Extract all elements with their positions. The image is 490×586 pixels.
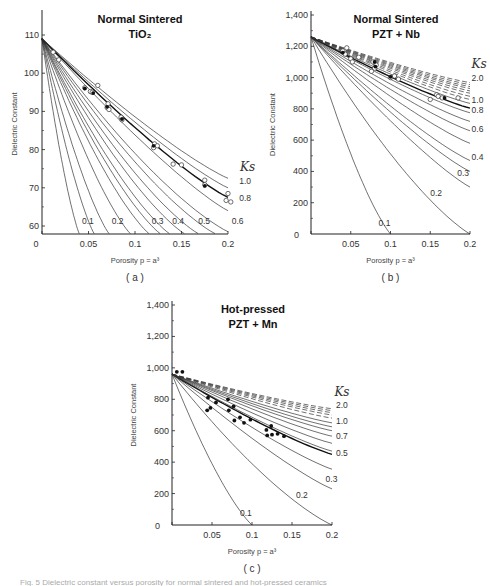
panel-label: ( b ) — [382, 272, 400, 283]
data-point-open — [203, 178, 207, 182]
ks-label-0.5: 0.5 — [198, 216, 210, 226]
chart-title-line2: PZT + Mn — [228, 318, 277, 330]
data-point-filled — [152, 144, 156, 148]
data-point-filled — [269, 424, 273, 428]
x-axis-label: Porosity p = a³ — [228, 547, 277, 556]
data-point-filled — [227, 408, 231, 412]
y-tick-label: 200 — [154, 489, 169, 499]
x-tick-label: 0.05 — [80, 239, 98, 249]
y-tick-label: 60 — [29, 221, 39, 231]
ks-label-0.1: 0.1 — [240, 508, 252, 518]
y-tick-label: 800 — [154, 394, 169, 404]
ks-label-1: 1.0 — [239, 176, 251, 186]
ks-label-0.8: 0.8 — [239, 193, 251, 203]
ks-label-1: 1.0 — [472, 95, 484, 105]
curves — [42, 39, 228, 234]
data-point-open — [345, 46, 349, 50]
chart-c-pzt-mn: 0.10.20.30.50.71.02.0Ks02004006008001,00… — [129, 300, 350, 574]
ks-label-0.8: 0.8 — [472, 105, 484, 115]
y-tick-label: 1,000 — [285, 73, 308, 83]
y-tick-label: 0 — [294, 230, 299, 240]
data-point-filled — [181, 370, 185, 374]
chart-title-line1: Normal Sintered — [354, 13, 439, 25]
ks-curve-0.8 — [42, 39, 228, 198]
ks-label-0.2: 0.2 — [430, 188, 442, 198]
data-point-filled — [265, 434, 269, 438]
x-tick-label: 0.15 — [283, 530, 301, 540]
x-tick-label: 0.15 — [173, 239, 191, 249]
chart-title-line1: Normal Sintered — [98, 13, 183, 25]
ks-curve-0.2 — [311, 37, 470, 234]
figure-canvas: 0.10.20.30.40.50.60.81.0Ks60708090100110… — [0, 0, 490, 586]
data-point-filled — [443, 96, 447, 100]
y-axis-label: Dielectric Constant — [129, 383, 138, 447]
y-tick-label: 0 — [155, 521, 160, 531]
data-point-open — [369, 69, 373, 73]
data-point-filled — [373, 60, 377, 64]
data-point-filled — [341, 51, 345, 55]
data-point-open — [51, 50, 55, 54]
ks-label-0.4: 0.4 — [172, 216, 184, 226]
y-tick-label: 100 — [24, 68, 39, 78]
x-tick-label: 0.05 — [342, 239, 360, 249]
ks-label-0.2: 0.2 — [112, 216, 124, 226]
data-point-filled — [232, 404, 236, 408]
data-point-filled — [203, 184, 207, 188]
y-tick-label: 600 — [293, 135, 308, 145]
data-point-filled — [175, 370, 179, 374]
data-point-filled — [91, 91, 95, 95]
chart-title-line2: PZT + Nb — [372, 28, 420, 40]
ks-label-0.6: 0.6 — [472, 124, 484, 134]
data-point-open — [226, 191, 230, 195]
data-point-filled — [120, 117, 124, 121]
ks-label-0.1: 0.1 — [379, 218, 391, 228]
ks-curve-0.9 — [42, 39, 228, 188]
chart-b-pzt-nb: 0.10.20.30.40.60.81.02.0Ks02004006008001… — [268, 10, 487, 283]
data-point-open — [357, 55, 361, 59]
ks-label-0.4: 0.4 — [472, 152, 484, 162]
y-tick-label: 1,400 — [146, 300, 169, 310]
data-point-open — [224, 198, 228, 202]
ks-curve-1 — [42, 39, 228, 179]
chart-a-tio2: 0.10.20.30.40.50.60.81.0Ks60708090100110… — [10, 10, 255, 283]
data-point-open — [456, 96, 460, 100]
chart-title-line1: Hot-pressed — [221, 303, 285, 315]
y-tick-label: 90 — [29, 106, 39, 116]
ks-label-0.5: 0.5 — [336, 448, 348, 458]
y-axis-label: Dielectric Constant — [10, 92, 19, 156]
x-axis-label: Porosity p = a³ — [111, 256, 160, 265]
ks-label-0.3: 0.3 — [457, 168, 469, 178]
data-point-open — [396, 77, 400, 81]
data-point-open — [392, 74, 396, 78]
data-point-filled — [83, 87, 87, 91]
x-tick-label: 0.1 — [129, 239, 142, 249]
y-tick-label: 1,400 — [285, 10, 308, 20]
x-tick-label: 0.2 — [464, 239, 477, 249]
data-point-open — [428, 97, 432, 101]
data-point-filled — [276, 432, 280, 436]
y-tick-label: 600 — [154, 426, 169, 436]
data-point-open — [229, 200, 233, 204]
ks-label-0.6: 0.6 — [232, 216, 244, 226]
ks-label-0.1: 0.1 — [82, 216, 94, 226]
data-point-filled — [238, 415, 242, 419]
data-point-filled — [206, 396, 210, 400]
y-tick-label: 800 — [293, 104, 308, 114]
x-axis-label: Porosity p = a³ — [366, 256, 415, 265]
data-point-filled — [249, 418, 253, 422]
data-point-filled — [242, 421, 246, 425]
data-point-open — [155, 144, 159, 148]
data-point-filled — [105, 105, 109, 109]
data-point-open — [96, 83, 100, 87]
data-point-filled — [270, 433, 274, 437]
data-point-open — [350, 60, 354, 64]
data-point-filled — [214, 401, 218, 405]
x-tick-label: 0.15 — [421, 239, 439, 249]
data-point-filled — [209, 406, 213, 410]
y-tick-label: 1,000 — [146, 363, 169, 373]
ks-curve-0.4 — [42, 39, 169, 234]
data-point-open — [171, 162, 175, 166]
panel-label: ( c ) — [243, 563, 260, 574]
y-tick-label: 110 — [25, 30, 39, 40]
y-tick-label: 400 — [293, 166, 308, 176]
